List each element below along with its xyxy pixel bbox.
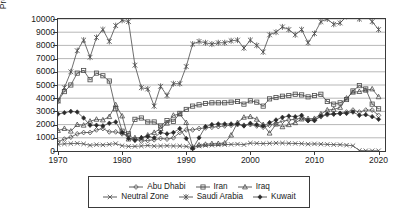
x-tick-label: 2010: [294, 156, 334, 165]
legend-item-neutral-zone[interactable]: Neutral Zone: [102, 192, 168, 202]
filled-diamond-icon: [252, 192, 268, 202]
legend-label: Kuwait: [271, 192, 296, 202]
legend-label: Iran: [214, 182, 228, 192]
legend-label: Neutral Zone: [121, 192, 168, 202]
asterisk-icon: [178, 192, 194, 202]
cross-icon: [102, 192, 118, 202]
x-tick-label: 1980: [102, 156, 142, 165]
legend-item-iran[interactable]: Iran: [195, 182, 228, 192]
chart-legend: Abu DhabiIranIraqNeutral ZoneSaudi Arabi…: [88, 176, 310, 208]
production-chart: Production kb/d 010002000300040005000600…: [0, 0, 397, 216]
series-iraq: [58, 86, 381, 149]
square-icon: [195, 182, 211, 192]
x-tick-label: 2000: [230, 156, 270, 165]
plot-area: [57, 18, 386, 152]
legend-item-kuwait[interactable]: Kuwait: [252, 192, 296, 202]
diamond-icon: [128, 182, 144, 192]
legend-item-iraq[interactable]: Iraq: [237, 182, 270, 192]
x-tick-label: 1970: [38, 156, 78, 165]
series-canvas: [58, 19, 385, 151]
legend-label: Iraq: [256, 182, 270, 192]
legend-item-abu-dhabi[interactable]: Abu Dhabi: [128, 182, 185, 192]
legend-label: Saudi Arabia: [197, 192, 243, 202]
x-tick-label: 2020: [359, 156, 397, 165]
x-tick-label: 1990: [166, 156, 206, 165]
legend-item-saudi-arabia[interactable]: Saudi Arabia: [178, 192, 243, 202]
legend-label: Abu Dhabi: [147, 182, 185, 192]
triangle-icon: [237, 182, 253, 192]
